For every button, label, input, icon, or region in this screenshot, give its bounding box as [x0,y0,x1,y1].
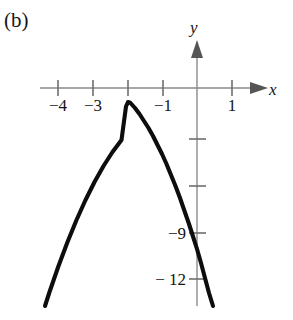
x-tick-label-neg4: −4 [49,96,68,115]
y-axis-label: y [188,18,198,37]
y-axis-arrow-icon [191,40,203,58]
x-axis-label: x [268,80,277,99]
x-tick-label-pos1: 1 [228,96,237,115]
figure-container: (b) x y −4 −3 −1 1 −9 − 12 [0,0,293,320]
y-tick-label-neg9: −9 [168,224,186,243]
x-tick-label-neg3: −3 [84,96,102,115]
parabola-plot: x y −4 −3 −1 1 −9 − 12 [0,0,293,320]
y-tick-label-neg12: − 12 [155,270,186,289]
x-axis-arrow-icon [250,82,268,94]
x-tick-label-neg1: −1 [154,96,172,115]
parabola-curve [45,102,213,306]
